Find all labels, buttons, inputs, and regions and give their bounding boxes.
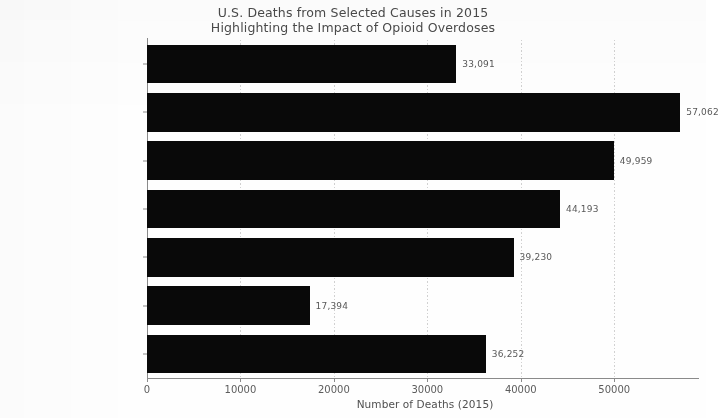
chart-subtitle: Highlighting the Impact of Opioid Overdo… xyxy=(0,20,706,35)
x-axis-tick-label: 0 xyxy=(144,384,150,395)
y-axis-tick-mark xyxy=(143,209,147,210)
x-axis-tick-label: 10000 xyxy=(225,384,257,395)
x-axis-tick-mark xyxy=(614,378,615,382)
x-axis-tick-mark xyxy=(334,378,335,382)
chart-title: U.S. Deaths from Selected Causes in 2015 xyxy=(0,5,706,20)
y-axis-tick-mark xyxy=(143,305,147,306)
x-axis-tick-label: 20000 xyxy=(318,384,350,395)
x-axis-tick-label: 40000 xyxy=(505,384,537,395)
chart-title-block: U.S. Deaths from Selected Causes in 2015… xyxy=(0,5,706,35)
x-axis-tick-label: 30000 xyxy=(411,384,443,395)
y-axis-tick-mark xyxy=(143,112,147,113)
x-axis-tick-mark xyxy=(147,378,148,382)
x-axis-tick-label: 50000 xyxy=(598,384,630,395)
y-axis-tick-mark xyxy=(143,353,147,354)
x-axis-tick-mark xyxy=(240,378,241,382)
y-axis-tick-mark xyxy=(143,257,147,258)
x-axis-label: Number of Deaths (2015) xyxy=(147,398,703,410)
x-axis-tick-mark xyxy=(521,378,522,382)
y-axis-tick-mark xyxy=(143,64,147,65)
y-axis-tick-mark xyxy=(143,160,147,161)
y-axis-ticks: Opioid OverdosesInfluenza & PneumoniaKid… xyxy=(0,40,706,378)
x-axis-tick-mark xyxy=(427,378,428,382)
